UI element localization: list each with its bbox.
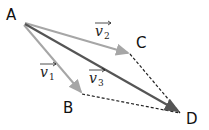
svg-text:1: 1 xyxy=(49,72,55,82)
vector-v2-arrow xyxy=(25,23,128,53)
svg-text:v: v xyxy=(89,70,97,86)
vector-label-v1: v 1 xyxy=(40,62,56,82)
point-label-b: B xyxy=(63,99,73,117)
svg-text:2: 2 xyxy=(104,31,110,41)
vector-diagram: A B C D v 1 v 2 v 3 xyxy=(0,0,209,130)
svg-text:3: 3 xyxy=(98,78,104,88)
svg-text:v: v xyxy=(95,23,103,39)
vector-label-v2: v 2 xyxy=(95,21,111,41)
point-label-d: D xyxy=(186,110,198,128)
point-label-c: C xyxy=(136,34,146,52)
point-label-a: A xyxy=(6,6,17,24)
svg-text:v: v xyxy=(40,64,48,80)
vector-label-v3: v 3 xyxy=(89,68,105,88)
